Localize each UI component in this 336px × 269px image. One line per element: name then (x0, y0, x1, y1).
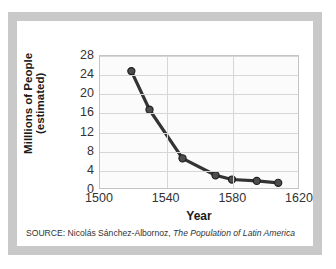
x-tick-label: 1540 (152, 191, 180, 205)
x-axis-tick-labels: 1500154015801620 (17, 191, 313, 209)
data-point-marker (253, 177, 260, 184)
y-axis-tick-labels: 0481216202428 (47, 21, 97, 199)
gridline-vertical (233, 56, 234, 188)
x-tick-label: 1620 (285, 191, 313, 205)
x-axis-title: Year (99, 209, 299, 223)
x-tick-label: 1500 (85, 191, 113, 205)
source-note: SOURCE: Nicolás Sánchez-Albornoz, The Po… (26, 227, 301, 239)
data-point-marker (212, 172, 219, 179)
y-axis-title-line-2: (estimated) (34, 53, 46, 154)
y-tick-label: 12 (80, 125, 94, 139)
y-axis-title: Milllions of People (estimated) (23, 27, 45, 179)
data-point-marker (146, 106, 153, 113)
y-tick-label: 8 (87, 144, 94, 158)
y-tick-label: 20 (80, 86, 94, 100)
y-tick-label: 16 (80, 105, 94, 119)
data-point-marker (275, 179, 282, 186)
figure-frame: Milllions of People (estimated) 04812162… (8, 12, 322, 255)
gridline-horizontal (100, 133, 298, 134)
series-polyline (131, 71, 278, 183)
source-title: The Population of Latin America (173, 228, 295, 238)
population-line-chart: Milllions of People (estimated) 04812162… (17, 21, 313, 199)
gridline-horizontal (100, 152, 298, 153)
gridline-horizontal (100, 171, 298, 172)
y-axis-title-line-1: Milllions of People (22, 53, 34, 154)
source-prefix: SOURCE: Nicolás Sánchez-Albornoz, (26, 228, 173, 238)
figure-panel: Milllions of People (estimated) 04812162… (17, 21, 313, 246)
data-point-marker (128, 68, 135, 75)
gridline-horizontal (100, 113, 298, 114)
x-tick-label: 1580 (218, 191, 246, 205)
y-tick-label: 28 (80, 48, 94, 62)
y-tick-label: 24 (80, 67, 94, 81)
gridline-vertical (167, 56, 168, 188)
gridline-horizontal (100, 75, 298, 76)
data-point-marker (179, 155, 186, 162)
gridline-horizontal (100, 56, 298, 57)
data-point-marker (228, 176, 235, 183)
y-tick-label: 4 (87, 163, 94, 177)
gridline-horizontal (100, 94, 298, 95)
plot-area (99, 55, 299, 189)
